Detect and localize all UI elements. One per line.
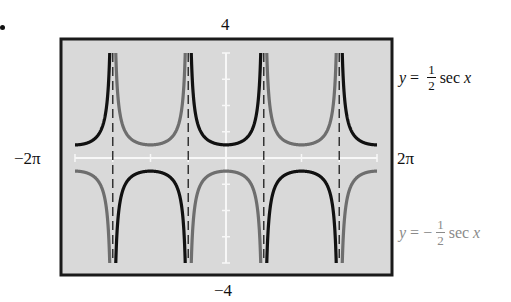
- x-max-label: 2π: [397, 150, 414, 167]
- eq1-fraction: 1 2: [427, 63, 436, 92]
- eq2-equals: =: [410, 224, 419, 242]
- y-max-label: 4: [221, 16, 230, 33]
- eq2-denominator: 2: [437, 233, 444, 247]
- eq2-function: sec: [449, 224, 469, 242]
- equation-label-negative: y = − 1 2 sec x: [399, 218, 480, 247]
- eq2-numerator: 1: [436, 218, 445, 233]
- eq2-sign: −: [423, 224, 432, 242]
- equation-label-positive: y = 1 2 sec x: [399, 63, 471, 92]
- eq2-lhs: y: [399, 224, 406, 242]
- x-min-label: −2π: [14, 150, 41, 167]
- eq1-variable: x: [464, 69, 471, 87]
- eq1-function: sec: [440, 69, 460, 87]
- eq1-equals: =: [410, 69, 419, 87]
- graph: [0, 0, 511, 302]
- eq1-denominator: 2: [428, 78, 435, 92]
- eq2-fraction: 1 2: [436, 218, 445, 247]
- y-min-label: −4: [214, 282, 232, 299]
- eq1-lhs: y: [399, 69, 406, 87]
- eq2-variable: x: [473, 224, 480, 242]
- eq1-numerator: 1: [427, 63, 436, 78]
